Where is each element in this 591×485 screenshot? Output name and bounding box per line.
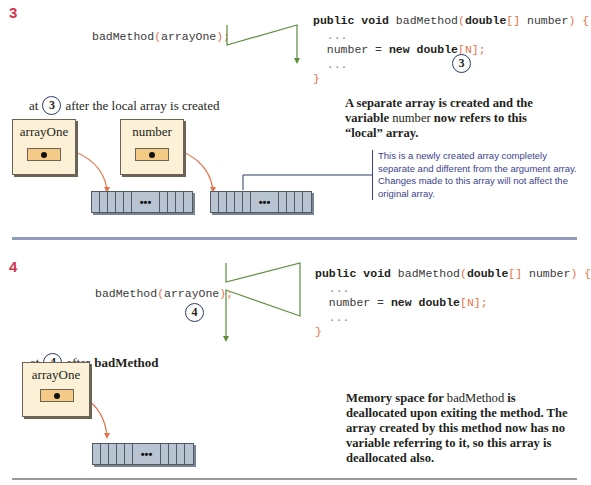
reference-slot bbox=[27, 148, 61, 161]
caption-marker: 3 bbox=[42, 96, 61, 115]
paren: ( bbox=[157, 287, 164, 300]
array-ellipsis: ••• bbox=[133, 444, 161, 464]
step-4-note: Memory space for badMethod is deallocate… bbox=[346, 391, 576, 466]
kw: public bbox=[315, 267, 356, 280]
brace: { bbox=[582, 14, 589, 27]
variable-box-arrayOne: arrayOne bbox=[22, 362, 90, 417]
reference-slot bbox=[40, 389, 74, 402]
paren-close: ); bbox=[219, 287, 233, 300]
variable-box-number: number bbox=[120, 119, 184, 175]
param: number bbox=[529, 267, 570, 280]
kw: new bbox=[391, 296, 412, 309]
semi: ; bbox=[481, 296, 488, 309]
note-text: Memory space for bbox=[346, 391, 447, 405]
step-4-method-call: badMethod(arrayOne); bbox=[95, 287, 233, 301]
array-arrayOne: ••• bbox=[91, 191, 193, 213]
step-3-note: A separate array is created and the vari… bbox=[345, 96, 567, 141]
paren: ( bbox=[460, 267, 467, 280]
variable-label: arrayOne bbox=[23, 367, 89, 383]
variable-box-arrayOne: arrayOne bbox=[12, 119, 76, 175]
reference-dot-icon bbox=[54, 393, 60, 399]
caption-text: after the local array is created bbox=[65, 98, 219, 114]
index: [N] bbox=[460, 296, 481, 309]
arrow-head-icon bbox=[294, 58, 300, 64]
note-code: number bbox=[392, 111, 430, 125]
brace: { bbox=[584, 267, 591, 280]
flow-arrow-icon bbox=[227, 25, 297, 60]
section-divider bbox=[12, 237, 577, 240]
step-4-number: 4 bbox=[9, 258, 17, 275]
step-3-caption: at 3 after the local array is created bbox=[29, 96, 220, 115]
brace: } bbox=[315, 325, 322, 338]
method-name: badMethod bbox=[398, 267, 460, 280]
reference-slot bbox=[135, 148, 169, 161]
call-method-name: badMethod bbox=[95, 287, 157, 300]
bottom-divider bbox=[12, 478, 577, 480]
reference-dot-icon bbox=[41, 152, 47, 158]
caption-bold: badMethod bbox=[94, 355, 158, 371]
variable-label: arrayOne bbox=[13, 124, 75, 140]
reference-dot-icon bbox=[149, 152, 155, 158]
array-local-number: ••• bbox=[210, 191, 312, 213]
paren: ) bbox=[570, 267, 577, 280]
step-4-method-code: public void badMethod(double[] number) {… bbox=[315, 267, 591, 340]
ellipsis: ... bbox=[329, 311, 350, 324]
variable-label: number bbox=[121, 124, 183, 140]
call-argument: arrayOne bbox=[164, 287, 219, 300]
ellipsis: ... bbox=[329, 282, 350, 295]
array-ellipsis: ••• bbox=[132, 192, 160, 212]
assign-lhs: number = bbox=[329, 296, 391, 309]
kw: void bbox=[363, 267, 391, 280]
caption-prefix: at bbox=[29, 98, 38, 114]
kw: double bbox=[467, 267, 508, 280]
array-ellipsis: ••• bbox=[251, 192, 279, 212]
array-arrayOne: ••• bbox=[92, 443, 194, 465]
step-3-annotation: This is a newly created array completely… bbox=[372, 150, 578, 200]
step-4-marker: 4 bbox=[185, 303, 204, 322]
note-code: badMethod bbox=[447, 391, 504, 405]
kw: double bbox=[419, 296, 460, 309]
brackets: [] bbox=[508, 267, 522, 280]
